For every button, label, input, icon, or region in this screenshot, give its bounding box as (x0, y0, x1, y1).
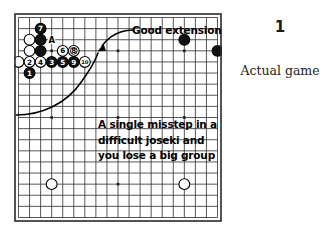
board-letter-markers: A (48, 35, 55, 45)
misstep-line-2: difficult joseki and (98, 133, 217, 149)
stone-white (24, 45, 35, 56)
star-point (117, 50, 120, 53)
letter-marker-A: A (48, 35, 55, 45)
black-stone-disc (35, 45, 46, 56)
numbered-stone-4: 4 (35, 57, 46, 68)
stone-number-label: 4 (38, 58, 43, 67)
numbered-stone-1: 1 (24, 68, 35, 79)
stone-number-label: 8 (71, 46, 76, 55)
numbered-stone-7: 7 (35, 23, 46, 34)
figure-side-panel: 1 Actual game (228, 0, 332, 247)
stone-white (24, 34, 35, 45)
stone-number-label: 1 (27, 69, 32, 78)
stone-white (179, 179, 190, 190)
numbered-stone-8: 8 (68, 45, 79, 56)
numbered-stone-10: 10 (79, 57, 90, 68)
stone-black (35, 45, 46, 56)
white-stone-disc (24, 34, 35, 45)
stone-number-label: 2 (27, 58, 32, 67)
numbered-stone-3: 3 (46, 57, 57, 68)
letter-marker-label: A (48, 35, 55, 45)
stone-number-label: 9 (71, 58, 76, 67)
star-point (117, 183, 120, 186)
good-extension-annotation: Good extension (132, 25, 221, 36)
star-point (50, 116, 53, 119)
stone-number-label: 7 (38, 24, 43, 33)
stone-number-label: 10 (81, 59, 89, 65)
misstep-annotation: A single misstep in a difficult joseki a… (98, 117, 217, 164)
misstep-line-1: A single misstep in a (98, 117, 217, 133)
stone-number-label: 5 (60, 58, 65, 67)
stone-number-label: 6 (60, 46, 65, 55)
white-stone-disc (179, 179, 190, 190)
white-stone-disc (24, 45, 35, 56)
stone-black (35, 34, 46, 45)
figure-number: 1 (228, 18, 332, 36)
numbered-stone-2: 2 (24, 57, 35, 68)
star-point (50, 50, 53, 53)
figure-caption: Actual game (228, 63, 332, 78)
go-board: 12345678910 A Good extension A single mi… (14, 13, 222, 222)
white-stone-disc (46, 179, 57, 190)
stone-number-label: 3 (49, 58, 54, 67)
numbered-stone-5: 5 (57, 57, 68, 68)
numbered-stone-6: 6 (57, 45, 68, 56)
numbered-stone-9: 9 (68, 57, 79, 68)
misstep-line-3: you lose a big group (98, 148, 217, 164)
stone-white (46, 179, 57, 190)
star-point (183, 50, 186, 53)
black-stone-disc (35, 34, 46, 45)
